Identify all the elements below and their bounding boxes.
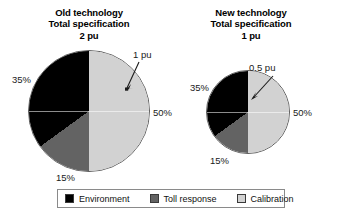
legend-swatch-toll-response (150, 194, 159, 203)
chart-canvas: Old technology Total specification 2 pu … (0, 0, 337, 223)
legend-label-toll-response: Toll response (164, 194, 217, 204)
legend-item-toll-response: Toll response (150, 194, 217, 204)
legend-label-calibration: Calibration (251, 194, 294, 204)
legend-item-environment: Environment (65, 194, 130, 204)
legend: Environment Toll response Calibration (57, 189, 285, 208)
legend-item-calibration: Calibration (237, 194, 294, 204)
legend-swatch-calibration (237, 194, 246, 203)
legend-swatch-environment (65, 194, 74, 203)
legend-label-environment: Environment (79, 194, 130, 204)
